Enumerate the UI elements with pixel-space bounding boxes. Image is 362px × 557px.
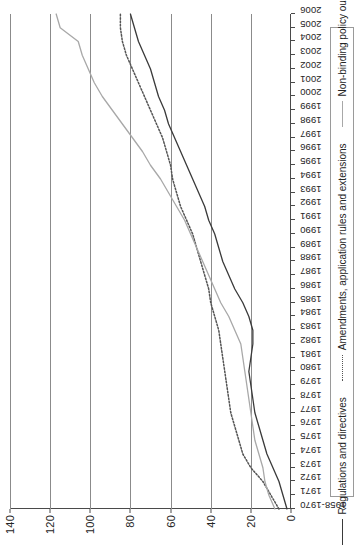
x-tick-mark: [291, 247, 295, 248]
x-tick-mark: [291, 274, 295, 275]
x-tick-label: 2006: [300, 5, 322, 16]
x-tick-mark: [291, 302, 295, 303]
x-tick-mark: [291, 178, 295, 179]
chart-legend: Regulations and directivesAmendments, ap…: [330, 27, 354, 497]
x-tick-mark: [291, 357, 295, 358]
x-tick-mark: [291, 54, 295, 55]
x-tick-mark: [291, 288, 295, 289]
x-tick-mark: [291, 481, 295, 482]
x-tick-mark: [291, 233, 295, 234]
series-line: [120, 14, 279, 509]
x-tick-mark: [291, 206, 295, 207]
x-tick-label: 1973: [300, 458, 322, 469]
y-tick-label: 40: [205, 515, 217, 528]
x-tick-mark: [291, 192, 295, 193]
x-tick-label: 1978: [300, 390, 322, 401]
x-tick-label: 2000: [300, 87, 322, 98]
x-tick-label: 1993: [300, 183, 322, 194]
x-tick-label: 1990: [300, 225, 322, 236]
x-tick-mark: [291, 82, 295, 83]
x-tick-label: 2001: [300, 73, 322, 84]
y-tick-label: 80: [124, 515, 136, 528]
y-tick-label: 100: [84, 515, 96, 534]
legend-item: Non-binding policy outputs: [337, 0, 348, 127]
x-tick-label: 1991: [300, 211, 322, 222]
x-tick-mark: [291, 329, 295, 330]
series-line: [56, 14, 275, 509]
x-tick-mark: [291, 384, 295, 385]
solid-gray-line-icon: [342, 101, 343, 127]
y-tick-mark: [10, 509, 11, 513]
x-tick-label: 1997: [300, 128, 322, 139]
x-tick-label: 1976: [300, 417, 322, 428]
x-tick-mark: [291, 164, 295, 165]
y-tick-mark: [130, 509, 131, 513]
plot-area: 020406080100120140: [10, 14, 291, 509]
x-tick-label: 1984: [300, 307, 322, 318]
x-tick-label: 2002: [300, 60, 322, 71]
x-tick-label: 1995: [300, 156, 322, 167]
x-tick-mark: [291, 123, 295, 124]
dotted-line-icon: [342, 355, 343, 381]
series-line: [130, 14, 287, 509]
x-tick-label: 1981: [300, 348, 322, 359]
rotated-figure-container: 020406080100120140 1958-1970197119721973…: [0, 0, 362, 557]
x-tick-label: 1999: [300, 101, 322, 112]
x-tick-mark: [291, 412, 295, 413]
x-tick-mark: [291, 508, 295, 509]
y-tick-mark: [210, 509, 211, 513]
y-tick-label: 60: [165, 515, 177, 528]
x-tick-mark: [291, 13, 295, 14]
x-tick-mark: [291, 68, 295, 69]
x-tick-label: 1979: [300, 376, 322, 387]
y-tick-label: 140: [4, 515, 16, 534]
x-tick-mark: [291, 109, 295, 110]
x-tick-mark: [291, 426, 295, 427]
x-tick-label: 1975: [300, 431, 322, 442]
x-tick-mark: [291, 219, 295, 220]
x-tick-mark: [291, 453, 295, 454]
y-tick-label: 0: [285, 515, 297, 521]
y-tick-mark: [50, 509, 51, 513]
y-tick-mark: [90, 509, 91, 513]
x-tick-mark: [291, 41, 295, 42]
x-tick-label: 1994: [300, 170, 322, 181]
x-tick-label: 1974: [300, 445, 322, 456]
y-tick-mark: [250, 509, 251, 513]
x-tick-label: 1982: [300, 335, 322, 346]
y-tick-label: 20: [245, 515, 257, 528]
x-tick-label: 1980: [300, 362, 322, 373]
x-tick-label: 1989: [300, 238, 322, 249]
legend-item: Regulations and directives: [337, 397, 348, 545]
x-tick-label: 1971: [300, 486, 322, 497]
x-tick-label: 1972: [300, 472, 322, 483]
y-tick-mark: [291, 509, 292, 513]
x-tick-mark: [291, 137, 295, 138]
legend-item-label: Regulations and directives: [337, 397, 348, 514]
legend-item-label: Non-binding policy outputs: [337, 0, 348, 96]
legend-item-label: Amendments, application rules and extens…: [337, 143, 348, 350]
x-tick-label: 1988: [300, 252, 322, 263]
x-tick-label: 1987: [300, 266, 322, 277]
x-tick-label: 2005: [300, 18, 322, 29]
x-tick-label: 1983: [300, 321, 322, 332]
x-tick-mark: [291, 27, 295, 28]
legend-item: Amendments, application rules and extens…: [337, 143, 348, 381]
x-tick-mark: [291, 439, 295, 440]
x-tick-mark: [291, 96, 295, 97]
x-tick-mark: [291, 398, 295, 399]
x-tick-mark: [291, 467, 295, 468]
x-tick-mark: [291, 343, 295, 344]
x-tick-mark: [291, 316, 295, 317]
solid-dark-line-icon: [342, 519, 343, 545]
x-tick-label: 1977: [300, 403, 322, 414]
y-tick-label: 120: [44, 515, 56, 534]
x-tick-mark: [291, 371, 295, 372]
x-tick-mark: [291, 494, 295, 495]
x-tick-label: 1996: [300, 142, 322, 153]
line-chart-figure: 020406080100120140 1958-1970197119721973…: [0, 0, 362, 557]
x-tick-label: 1992: [300, 197, 322, 208]
x-tick-label: 2004: [300, 32, 322, 43]
series-lines-group: [10, 14, 291, 509]
x-tick-label: 2003: [300, 46, 322, 57]
